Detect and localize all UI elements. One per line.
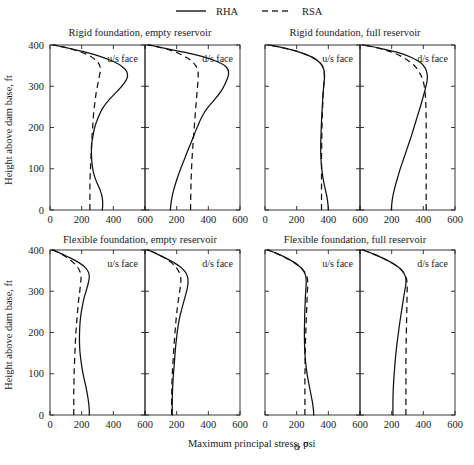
x-axis-title-tail: , psi — [298, 438, 316, 449]
curve-rsa — [268, 45, 324, 210]
y-tick-label: 300 — [28, 81, 44, 92]
y-tick-label: 0 — [39, 205, 44, 216]
x-tick-label: 600 — [137, 214, 153, 225]
panel-frame — [50, 250, 145, 415]
x-tick-label: 600 — [232, 419, 248, 430]
x-axis-title-main: Maximum principal stress, σ — [188, 438, 309, 449]
y-axis-title: Height above dam base, ft — [3, 75, 14, 185]
panel-frame — [265, 250, 360, 415]
y-tick-label: 400 — [28, 40, 44, 51]
x-tick-label: 200 — [289, 419, 305, 430]
panel-flexible-full-us: 0200400600u/s face — [262, 250, 368, 430]
legend: RHA RSA — [176, 6, 323, 17]
panel-frame — [145, 250, 240, 415]
x-tick-label: 400 — [200, 419, 216, 430]
legend-label-rha: RHA — [216, 6, 239, 17]
x-tick-label: 0 — [47, 214, 52, 225]
curve-rsa — [53, 45, 100, 210]
x-tick-label: 200 — [384, 419, 400, 430]
y-tick-label: 100 — [28, 163, 44, 174]
group-title-flexible-empty: Flexible foundation, empty reservoir — [63, 234, 217, 245]
face-label: d/s face — [417, 53, 448, 64]
curve-rha — [52, 250, 89, 415]
curve-rha — [363, 250, 406, 415]
curve-rsa — [147, 250, 181, 415]
x-tick-label: 400 — [105, 419, 121, 430]
y-tick-label: 0 — [39, 410, 44, 421]
panel-frame — [360, 250, 455, 415]
panel-frame — [265, 45, 360, 210]
x-tick-label: 600 — [352, 214, 368, 225]
face-label: d/s face — [202, 258, 233, 269]
group-title-rigid-empty: Rigid foundation, empty reservoir — [69, 27, 212, 38]
face-label: u/s face — [107, 53, 138, 64]
curve-rsa — [52, 250, 81, 415]
curve-rsa — [268, 250, 308, 415]
panel-rigid-full-ds: 200400600d/s face — [360, 45, 463, 225]
x-tick-label: 400 — [415, 214, 431, 225]
curve-rsa — [148, 45, 198, 210]
curve-rha — [268, 250, 314, 415]
y-tick-label: 100 — [28, 368, 44, 379]
figure-container: RHA RSA Rigid foundation, empty reservoi… — [0, 0, 474, 465]
y-tick-label: 400 — [28, 245, 44, 256]
x-tick-label: 600 — [137, 419, 153, 430]
face-label: u/s face — [322, 258, 353, 269]
group-title-flexible-full: Flexible foundation, full reservoir — [284, 234, 427, 245]
curve-rha — [147, 250, 188, 415]
x-tick-label: 600 — [232, 214, 248, 225]
x-tick-label: 0 — [262, 214, 267, 225]
curve-rsa — [363, 45, 426, 210]
panel-flexible-empty-us: 02004006000100200300400u/s face — [28, 245, 153, 430]
curve-rha — [148, 45, 229, 210]
panel-rigid-full-us: 0200400600u/s face — [262, 45, 368, 225]
x-tick-label: 400 — [105, 214, 121, 225]
x-tick-label: 400 — [320, 214, 336, 225]
curve-rha — [268, 45, 328, 210]
y-tick-label: 200 — [28, 122, 44, 133]
group-title-rigid-full: Rigid foundation, full reservoir — [289, 27, 421, 38]
x-tick-label: 200 — [169, 419, 185, 430]
curve-rha — [363, 45, 427, 210]
x-tick-label: 400 — [200, 214, 216, 225]
x-tick-label: 600 — [352, 419, 368, 430]
panel-frame — [360, 45, 455, 210]
x-tick-label: 200 — [289, 214, 305, 225]
y-axis-title-bottom: Height above dam base, ft — [3, 280, 14, 390]
x-tick-label: 600 — [447, 419, 463, 430]
stress-profile-figure: RHA RSA Rigid foundation, empty reservoi… — [0, 0, 474, 465]
panel-rigid-empty-us: 02004006000100200300400u/s face — [28, 40, 153, 225]
legend-label-rsa: RSA — [302, 6, 323, 17]
panel-flexible-full-ds: 200400600d/s face — [360, 250, 463, 430]
panel-rigid-empty-ds: 200400600d/s face — [145, 45, 248, 225]
x-tick-label: 400 — [415, 419, 431, 430]
y-tick-label: 300 — [28, 286, 44, 297]
panel-flexible-empty-ds: 200400600d/s face — [145, 250, 248, 430]
x-axis-title: Maximum principal stress, σ d , psi — [188, 438, 316, 452]
face-label: u/s face — [322, 53, 353, 64]
y-tick-label: 200 — [28, 327, 44, 338]
panel-frame — [145, 45, 240, 210]
x-tick-label: 200 — [384, 214, 400, 225]
curve-rsa — [363, 250, 408, 415]
face-label: d/s face — [417, 258, 448, 269]
x-tick-label: 600 — [447, 214, 463, 225]
x-tick-label: 200 — [169, 214, 185, 225]
x-tick-label: 0 — [47, 419, 52, 430]
x-tick-label: 200 — [74, 419, 90, 430]
x-tick-label: 0 — [262, 419, 267, 430]
face-label: u/s face — [107, 258, 138, 269]
x-tick-label: 400 — [320, 419, 336, 430]
x-tick-label: 200 — [74, 214, 90, 225]
